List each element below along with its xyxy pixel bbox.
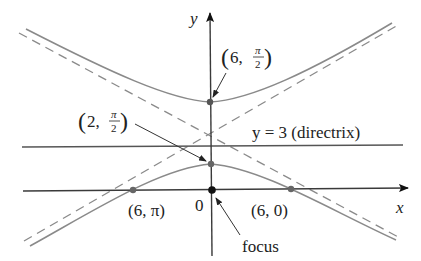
svg-text:6,: 6, bbox=[230, 48, 243, 67]
y-axis-label: y bbox=[188, 9, 198, 28]
upper-vertex-pointer bbox=[213, 73, 226, 97]
svg-text:(: ( bbox=[78, 108, 86, 134]
x-axis-label: x bbox=[395, 198, 404, 217]
svg-text:π: π bbox=[255, 44, 261, 56]
right-intercept-point bbox=[288, 186, 294, 192]
hyperbola-diagram: y x 0 ( 6, π 2 ) ( 2, π 2 ) y = 3 (direc… bbox=[0, 0, 421, 261]
svg-text:): ) bbox=[264, 44, 272, 70]
focus-point bbox=[208, 186, 216, 194]
left-intercept-label: (6, π) bbox=[128, 201, 165, 220]
svg-text:2: 2 bbox=[111, 122, 117, 134]
upper-vertex-label: ( 6, π 2 ) bbox=[221, 44, 272, 70]
upper-vertex-point bbox=[207, 99, 213, 105]
lower-vertex-label: ( 2, π 2 ) bbox=[78, 108, 128, 134]
svg-text:): ) bbox=[120, 108, 128, 134]
lower-vertex-point bbox=[208, 161, 214, 167]
hyperbola-upper-branch bbox=[26, 23, 392, 102]
focus-pointer bbox=[216, 198, 240, 235]
origin-label: 0 bbox=[195, 196, 204, 215]
directrix-label: y = 3 (directrix) bbox=[252, 123, 360, 142]
left-intercept-point bbox=[130, 187, 136, 193]
svg-text:2: 2 bbox=[255, 58, 261, 70]
hyperbola-lower-branch bbox=[30, 164, 396, 246]
right-intercept-label: (6, 0) bbox=[251, 201, 288, 220]
focus-label: focus bbox=[242, 237, 279, 256]
y-axis bbox=[210, 13, 212, 256]
svg-text:2,: 2, bbox=[87, 112, 100, 131]
svg-text:π: π bbox=[111, 108, 117, 120]
svg-text:(: ( bbox=[221, 44, 229, 70]
directrix-line bbox=[22, 145, 403, 147]
